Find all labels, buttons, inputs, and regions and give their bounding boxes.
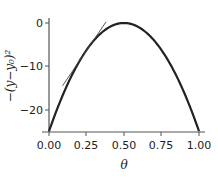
x-tick-label: 0.75 bbox=[149, 139, 174, 152]
x-axis-label: θ bbox=[120, 158, 128, 172]
chart: 0 −10 −20 −(y−y₀)² 0.00 0.25 0.50 0.75 1… bbox=[0, 0, 218, 181]
x-axis: 0.00 0.25 0.50 0.75 1.00 θ bbox=[37, 132, 212, 172]
parabola-curve bbox=[49, 23, 199, 131]
y-axis-label: −(y−y₀)² bbox=[3, 49, 17, 102]
y-tick-label: 0 bbox=[36, 17, 43, 30]
y-tick-label: −20 bbox=[20, 104, 43, 117]
x-tick-label: 0.00 bbox=[37, 139, 62, 152]
y-tick-label: −10 bbox=[20, 60, 43, 73]
x-tick-label: 0.25 bbox=[74, 139, 99, 152]
x-tick-label: 1.00 bbox=[187, 139, 212, 152]
y-axis: 0 −10 −20 −(y−y₀)² bbox=[3, 17, 49, 132]
tangent-line bbox=[63, 22, 107, 86]
x-tick-label: 0.50 bbox=[112, 139, 137, 152]
